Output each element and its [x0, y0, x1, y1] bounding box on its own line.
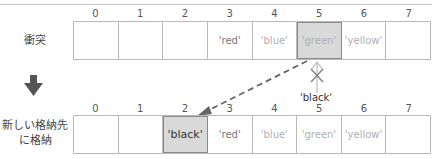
index-label: 4	[252, 103, 297, 115]
index-label: 6	[342, 103, 387, 115]
stored-index-row: 0 1 2 3 4 5 6 7	[73, 103, 431, 115]
table-cell: 'green'	[297, 116, 342, 153]
stored-label-line1: 新しい格納先	[0, 118, 70, 133]
index-label: 1	[118, 103, 163, 115]
stored-label: 新しい格納先 に格納	[0, 118, 70, 148]
table-cell: 'yellow'	[342, 116, 387, 153]
table-cell: 'red'	[208, 116, 253, 153]
index-label: 3	[207, 103, 252, 115]
blocked-insert-icon	[311, 62, 323, 93]
stored-hash-table: 'black' 'red' 'blue' 'green' 'yellow'	[73, 115, 431, 154]
table-cell-new-entry: 'black'	[163, 116, 208, 153]
down-arrow-icon	[24, 75, 43, 96]
index-label: 0	[73, 103, 118, 115]
table-cell	[119, 116, 164, 153]
index-label: 7	[386, 103, 431, 115]
blocked-value-label: 'black'	[300, 92, 332, 103]
table-cell	[386, 116, 431, 153]
index-label: 5	[297, 103, 342, 115]
table-cell: 'blue'	[253, 116, 298, 153]
table-cell	[74, 116, 119, 153]
index-label: 2	[163, 103, 208, 115]
stored-label-line2: に格納	[0, 133, 70, 148]
